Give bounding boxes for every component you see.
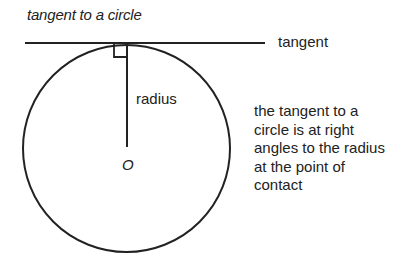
radius-label: radius bbox=[136, 90, 177, 107]
center-label: O bbox=[122, 156, 134, 173]
explanation-note: the tangent to a circle is at right angl… bbox=[254, 102, 401, 195]
diagram-title: tangent to a circle bbox=[27, 6, 142, 23]
note-line: the tangent to a bbox=[254, 102, 401, 121]
note-line: at the point of bbox=[254, 158, 401, 177]
note-line: angles to the radius bbox=[254, 139, 401, 158]
note-line: contact bbox=[254, 176, 401, 195]
tangent-label: tangent bbox=[278, 33, 328, 50]
note-line: circle is at right bbox=[254, 121, 401, 140]
